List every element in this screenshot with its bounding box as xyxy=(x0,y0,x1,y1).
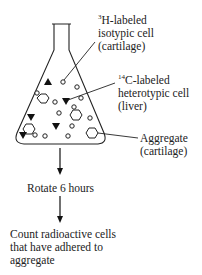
heterotypic-cell-label: 14C-labeled heterotypic cell (liver) xyxy=(118,74,189,113)
rotate-step-label: Rotate 6 hours xyxy=(27,182,94,195)
heterotypic-cells xyxy=(19,78,70,139)
aggregate-leader xyxy=(98,133,138,138)
count-step-label: Count radioactive cells that have adhere… xyxy=(10,228,116,267)
aggregate-label: Aggregate (cartilage) xyxy=(140,132,188,158)
arrow-1-head xyxy=(57,168,63,175)
aggregate-hexagons xyxy=(23,94,98,138)
isotypic-cells xyxy=(33,80,92,138)
isotypic-cell-label: 3H-labeled isotypic cell (cartilage) xyxy=(98,14,154,53)
flask-outline xyxy=(16,24,105,144)
arrow-2-head xyxy=(57,216,63,223)
